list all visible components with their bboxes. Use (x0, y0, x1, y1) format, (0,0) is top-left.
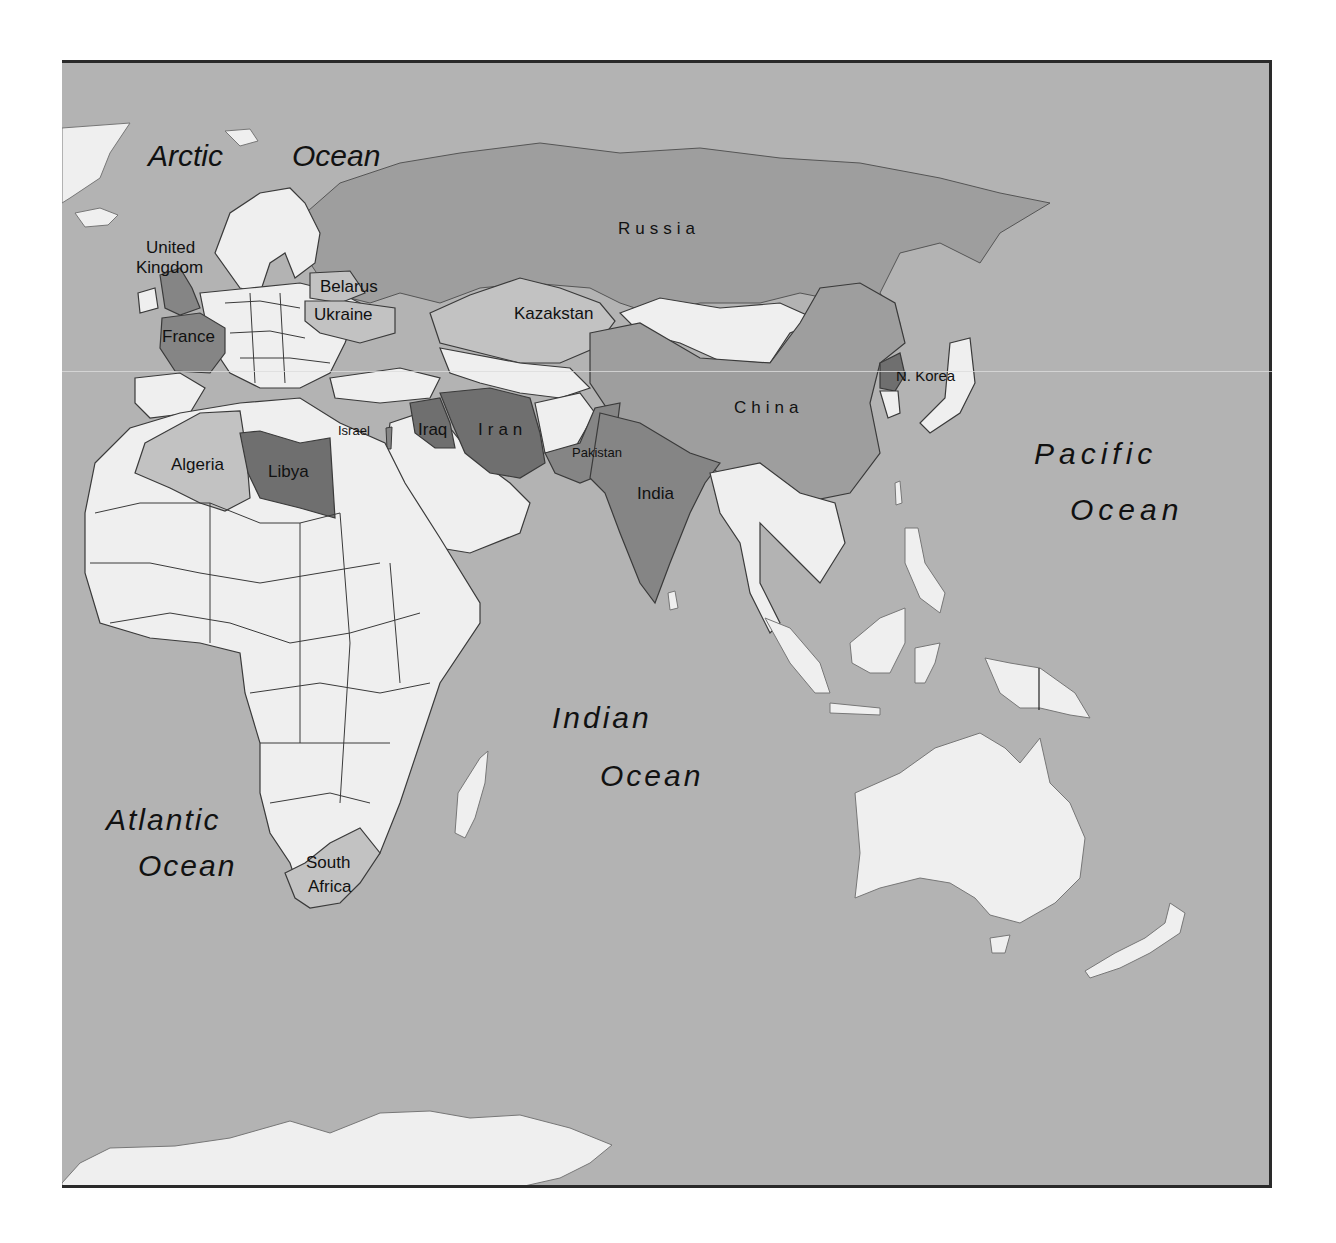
label-atlantic: Atlantic (106, 805, 220, 835)
sulawesi (915, 643, 940, 683)
label-china: China (734, 399, 803, 416)
ireland (138, 288, 158, 313)
borneo (850, 608, 905, 673)
label-india: India (637, 485, 674, 502)
label-uk-line2: Kingdom (136, 259, 203, 276)
label-israel: Israel (338, 424, 370, 437)
label-ukraine: Ukraine (314, 306, 373, 323)
map-frame: Arctic Ocean Pacific Ocean Indian Ocean … (62, 60, 1272, 1188)
label-algeria: Algeria (171, 456, 224, 473)
label-indian-ocean: Ocean (600, 761, 703, 791)
label-libya: Libya (268, 463, 309, 480)
label-atlantic-ocean: Ocean (138, 851, 236, 881)
scan-artifact-line (62, 371, 1272, 372)
label-russia: Russia (618, 220, 700, 237)
label-pakistan: Pakistan (572, 446, 622, 459)
label-uk-line1: United (146, 239, 195, 256)
label-south-africa-line1: South (306, 854, 350, 871)
label-arctic: Arctic (148, 141, 223, 171)
label-arctic-ocean: Ocean (292, 141, 380, 171)
svalbard (225, 129, 258, 146)
iceland (75, 208, 118, 227)
greenland (62, 123, 130, 203)
label-belarus: Belarus (320, 278, 378, 295)
antarctica (62, 1111, 612, 1188)
label-france: France (162, 328, 215, 345)
label-pacific-ocean: Ocean (1070, 495, 1183, 525)
taiwan (895, 481, 902, 505)
new-guinea (985, 658, 1090, 718)
philippines (905, 528, 945, 613)
label-pacific: Pacific (1034, 439, 1157, 469)
turkey (330, 368, 440, 403)
sumatra (765, 618, 830, 693)
sri-lanka (668, 591, 678, 610)
japan (920, 338, 975, 433)
australia (855, 733, 1085, 923)
south-korea (880, 391, 900, 418)
madagascar (455, 751, 488, 838)
scandinavia (215, 188, 320, 293)
label-south-africa-line2: Africa (308, 878, 351, 895)
label-indian: Indian (552, 703, 652, 733)
java (830, 703, 880, 715)
tasmania (990, 935, 1010, 953)
label-iran: Iran (478, 421, 527, 438)
label-kazakstan: Kazakstan (514, 305, 593, 322)
label-iraq: Iraq (418, 421, 447, 438)
new-zealand (1085, 903, 1185, 978)
